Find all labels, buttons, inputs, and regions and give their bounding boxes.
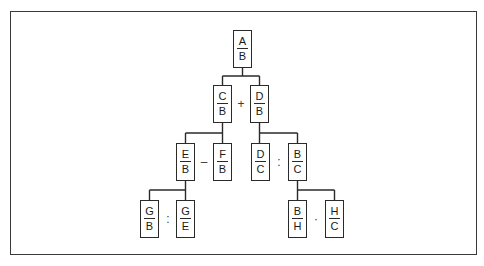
fraction-bar [254, 103, 265, 104]
operator-divide: : [161, 213, 175, 225]
fraction-bar [292, 218, 303, 219]
numerator: D [256, 91, 264, 102]
node-d-over-c: D C [251, 143, 270, 181]
node-g-over-e: G E [176, 200, 195, 238]
node-b-over-c: B C [288, 143, 307, 181]
fraction-bar [180, 218, 191, 219]
fraction-bar [144, 218, 155, 219]
fraction-bar [255, 161, 266, 162]
node-g-over-b: G B [140, 200, 159, 238]
operator-divide: : [272, 156, 286, 168]
denominator: C [331, 221, 339, 232]
numerator: E [182, 149, 189, 160]
denominator: B [239, 51, 246, 62]
numerator: D [257, 149, 265, 160]
node-e-over-b: E B [176, 143, 195, 181]
fraction-bar [180, 161, 191, 162]
denominator: C [257, 164, 265, 175]
node-c-over-b: C B [213, 85, 232, 123]
fraction-bar [217, 103, 228, 104]
denominator: B [219, 106, 226, 117]
numerator: G [181, 206, 190, 217]
fraction-bar [292, 161, 303, 162]
fraction-bar [237, 48, 248, 49]
denominator: B [219, 164, 226, 175]
numerator: B [294, 149, 301, 160]
fraction-bar [217, 161, 228, 162]
denominator: C [294, 164, 302, 175]
node-a-over-b: A B [233, 30, 252, 68]
numerator: B [294, 206, 301, 217]
node-d-over-b: D B [250, 85, 269, 123]
numerator: G [145, 206, 154, 217]
denominator: B [182, 164, 189, 175]
operator-multiply: · [309, 213, 323, 225]
fraction-bar [329, 218, 340, 219]
node-b-over-h: B H [288, 200, 307, 238]
numerator: H [331, 206, 339, 217]
denominator: B [146, 221, 153, 232]
denominator: E [182, 221, 189, 232]
denominator: B [256, 106, 263, 117]
node-h-over-c: H C [325, 200, 344, 238]
operator-minus: – [197, 156, 211, 168]
numerator: A [239, 36, 246, 47]
denominator: H [294, 221, 302, 232]
operator-plus: + [234, 98, 248, 110]
numerator: F [219, 149, 226, 160]
node-f-over-b: F B [213, 143, 232, 181]
numerator: C [219, 91, 227, 102]
